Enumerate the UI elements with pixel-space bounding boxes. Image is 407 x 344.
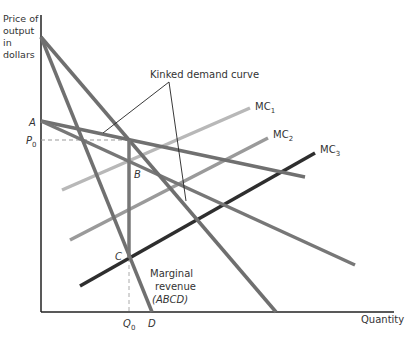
pointer-left bbox=[103, 82, 169, 133]
point-a-label: A bbox=[28, 117, 36, 128]
q0-label: Q0 bbox=[123, 318, 135, 332]
mr-label-3: (ABCD) bbox=[152, 294, 188, 305]
demand-upper-line bbox=[41, 121, 305, 177]
mc3-label: MC3 bbox=[320, 144, 340, 158]
mc1-line bbox=[62, 108, 250, 190]
kinked-demand-label: Kinked demand curve bbox=[150, 69, 259, 80]
x-axis-label: Quantity bbox=[361, 314, 404, 325]
p0-label: P0 bbox=[26, 135, 37, 149]
mr-label-1: Marginal bbox=[150, 268, 193, 279]
demand-flat-line bbox=[41, 121, 355, 265]
point-c-label: C bbox=[115, 251, 122, 262]
mc1-label: MC1 bbox=[255, 101, 275, 115]
mr-label-2: revenue bbox=[155, 281, 196, 292]
point-b-label: B bbox=[134, 169, 141, 180]
chart-canvas: Kinked demand curve MC1 MC2 MC3 A P0 B C… bbox=[0, 0, 407, 344]
point-d-label: D bbox=[148, 318, 156, 329]
mc2-label: MC2 bbox=[273, 129, 293, 143]
